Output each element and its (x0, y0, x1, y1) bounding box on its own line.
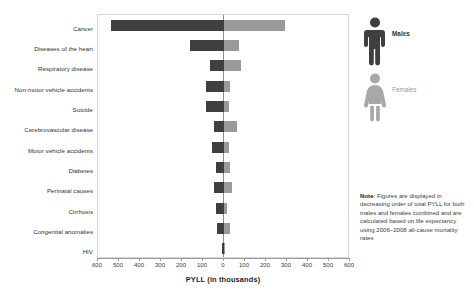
axis-tick (139, 258, 140, 261)
axis-tick-label: 100 (197, 262, 207, 268)
bar-row (98, 162, 348, 173)
axis-tick (349, 258, 350, 261)
category-label: Cancer (0, 25, 93, 32)
bar-female[interactable] (224, 182, 232, 193)
category-label: HIV (0, 248, 93, 255)
axis-tick (265, 258, 266, 261)
bar-female[interactable] (224, 223, 230, 234)
axis-tick-label: 0 (221, 262, 224, 268)
female-figure-icon (362, 72, 388, 122)
axis-tick-label: 300 (155, 262, 165, 268)
category-label: Congenital anomalies (0, 228, 93, 235)
category-label: Respiratory disease (0, 65, 93, 72)
bar-row (98, 20, 348, 31)
bar-male[interactable] (111, 20, 224, 31)
category-label: Non-motor vehicle accidents (0, 86, 93, 93)
legend: Males Females (360, 16, 470, 128)
axis-tick-label: 400 (134, 262, 144, 268)
bar-female[interactable] (224, 162, 230, 173)
axis-tick (160, 258, 161, 261)
axis-tick-label: 600 (92, 262, 102, 268)
axis-tick (202, 258, 203, 261)
bar-female[interactable] (224, 203, 227, 214)
bar-row (98, 60, 348, 71)
category-label: Cerebrovascular disease (0, 126, 93, 133)
axis-tick (328, 258, 329, 261)
legend-label-females: Females (392, 86, 417, 93)
bar-female[interactable] (224, 121, 237, 132)
bar-row (98, 203, 348, 214)
category-label: Suicide (0, 106, 93, 113)
axis-tick-label: 400 (302, 262, 312, 268)
axis-tick (286, 258, 287, 261)
axis-tick (223, 258, 224, 261)
bar-row (98, 243, 348, 254)
bar-female[interactable] (224, 20, 285, 31)
category-label: Cirrhosis (0, 208, 93, 215)
axis-tick (244, 258, 245, 261)
bar-row (98, 40, 348, 51)
plot-area (97, 14, 349, 258)
legend-label-males: Males (392, 30, 410, 37)
bar-female[interactable] (224, 60, 241, 71)
bar-male[interactable] (216, 203, 224, 214)
bar-female[interactable] (224, 243, 225, 254)
axis-tick (181, 258, 182, 261)
bar-row (98, 182, 348, 193)
legend-item-females[interactable]: Females (360, 72, 470, 128)
axis-tick-label: 100 (239, 262, 249, 268)
axis-tick-label: 500 (113, 262, 123, 268)
category-label: Diseases of the heart (0, 45, 93, 52)
axis-tick-label: 200 (176, 262, 186, 268)
bar-male[interactable] (217, 223, 224, 234)
note-text: Note: Figures are displayed in decreasin… (360, 192, 468, 242)
bar-row (98, 101, 348, 112)
bar-row (98, 121, 348, 132)
bar-male[interactable] (190, 40, 224, 51)
zero-axis-line (223, 15, 224, 257)
axis-tick-label: 300 (281, 262, 291, 268)
axis-tick-label: 200 (260, 262, 270, 268)
bar-male[interactable] (206, 101, 224, 112)
axis-tick-label: 600 (344, 262, 354, 268)
category-label: Perinatal causes (0, 187, 93, 194)
bar-row (98, 81, 348, 92)
bar-male[interactable] (206, 81, 224, 92)
bar-row (98, 142, 348, 153)
bar-male[interactable] (216, 162, 224, 173)
axis-tick-label: 500 (323, 262, 333, 268)
bar-female[interactable] (224, 101, 229, 112)
bar-row (98, 223, 348, 234)
bar-female[interactable] (224, 40, 239, 51)
legend-item-males[interactable]: Males (360, 16, 470, 72)
bar-male[interactable] (214, 182, 224, 193)
category-label: Diabetes (0, 167, 93, 174)
bar-female[interactable] (224, 81, 230, 92)
note-body: : Figures are displayed in decreasing or… (360, 192, 464, 241)
x-axis-line: 6005004003002001000100200300400500600 (97, 258, 349, 259)
category-label: Motor vehicle accidents (0, 147, 93, 154)
note-prefix: Note (360, 192, 374, 199)
male-figure-icon (362, 16, 388, 66)
bar-female[interactable] (224, 142, 229, 153)
bar-male[interactable] (210, 60, 224, 71)
axis-tick (97, 258, 98, 261)
bar-male[interactable] (214, 121, 225, 132)
x-axis-title: PYLL (in thousands) (97, 275, 349, 284)
chart-container: CancerDiseases of the heartRespiratory d… (0, 0, 474, 295)
axis-tick (118, 258, 119, 261)
category-axis-labels: CancerDiseases of the heartRespiratory d… (0, 18, 93, 256)
bar-male[interactable] (212, 142, 224, 153)
axis-tick (307, 258, 308, 261)
